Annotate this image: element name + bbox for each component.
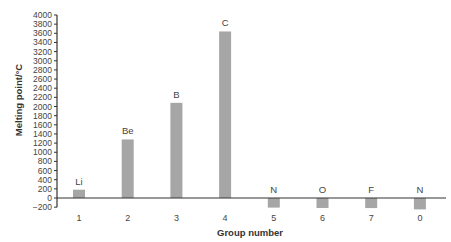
x-category-label: 2	[125, 213, 130, 223]
x-category-label: 3	[174, 213, 179, 223]
y-tick-label: 1200	[33, 138, 52, 148]
x-category-label: 5	[271, 213, 276, 223]
y-tick-label: 2800	[33, 65, 52, 75]
y-tick-label: 2400	[33, 83, 52, 93]
x-category-label: 7	[369, 213, 374, 223]
y-tick-label: −200	[33, 202, 52, 212]
x-axis-title: Group number	[217, 227, 283, 238]
bar-element-label: Be	[122, 125, 134, 136]
y-tick-label: 2000	[33, 102, 52, 112]
bar-element-label: B	[173, 89, 179, 100]
y-tick-label: 0	[47, 193, 52, 203]
y-tick-label: 3600	[33, 28, 52, 38]
bar-element-label: N	[270, 184, 277, 195]
bar-group-2	[122, 139, 134, 198]
bar-group-0	[414, 198, 426, 209]
y-tick-label: 3200	[33, 47, 52, 57]
bar-group-7	[365, 198, 377, 208]
x-category-label: 0	[417, 213, 422, 223]
y-tick-label: 200	[38, 184, 52, 194]
y-tick-label: 400	[38, 175, 52, 185]
y-tick-label: 800	[38, 156, 52, 166]
bar-element-label: N	[416, 184, 423, 195]
y-tick-label: 2200	[33, 92, 52, 102]
bar-group-4	[219, 31, 231, 198]
y-tick-label: 4000	[33, 10, 52, 20]
x-category-label: 1	[76, 213, 81, 223]
x-axis-category-labels: 12345670	[76, 213, 422, 223]
bar-element-label: Li	[75, 176, 82, 187]
bar-element-label: O	[319, 184, 326, 195]
y-tick-label: 1600	[33, 120, 52, 130]
melting-point-bar-chart: −200020040060080010001200140016001800200…	[0, 0, 451, 242]
bar-group-5	[268, 198, 280, 208]
bar-group-6	[317, 198, 329, 208]
y-tick-label: 3000	[33, 56, 52, 66]
y-axis-title: Melting point/°C	[13, 64, 24, 137]
x-category-label: 6	[320, 213, 325, 223]
y-tick-label: 1400	[33, 129, 52, 139]
bar-element-label: F	[368, 184, 374, 195]
bar-element-label: C	[222, 17, 229, 28]
x-category-label: 4	[223, 213, 228, 223]
bar-group-1	[73, 190, 85, 198]
y-tick-label: 2600	[33, 74, 52, 84]
y-tick-label: 1800	[33, 111, 52, 121]
y-tick-label: 600	[38, 166, 52, 176]
bars	[73, 31, 426, 209]
y-axis-ticks: −200020040060080010001200140016001800200…	[33, 10, 57, 212]
y-tick-label: 1000	[33, 147, 52, 157]
y-tick-label: 3800	[33, 19, 52, 29]
bar-group-3	[170, 103, 182, 198]
y-tick-label: 3400	[33, 37, 52, 47]
